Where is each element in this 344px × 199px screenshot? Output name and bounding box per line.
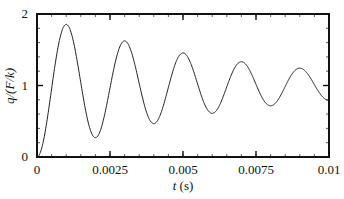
y-tick-label: 2 (22, 6, 29, 21)
y-axis-label: q/(F/k) (2, 68, 17, 104)
x-tick-label: 0.0025 (92, 162, 128, 177)
x-tick-label: 0.01 (318, 162, 341, 177)
y-tick-labels: 012 (22, 6, 29, 164)
y-tick-label: 0 (22, 149, 29, 164)
x-tick-label: 0 (34, 162, 41, 177)
y-tick-label: 1 (22, 78, 29, 93)
x-tick-label: 0.005 (168, 162, 197, 177)
x-tick-label: 0.0075 (238, 162, 274, 177)
x-tick-labels: 00.00250.0050.00750.01 (34, 162, 341, 177)
response-curve (37, 24, 329, 157)
x-axis-label-unit: (s) (176, 178, 193, 193)
chart: 00.00250.0050.00750.01 012 t (s) q/(F/k) (0, 0, 344, 199)
x-axis-label: t (s) (173, 178, 194, 193)
